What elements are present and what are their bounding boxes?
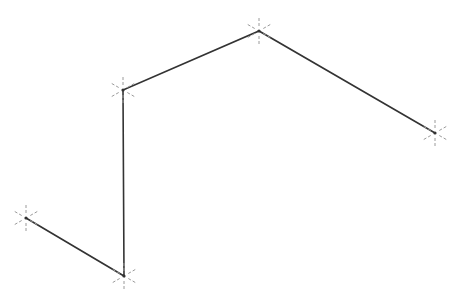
vertex-markers bbox=[15, 18, 447, 289]
vertex-marker-icon[interactable] bbox=[248, 18, 271, 44]
polyline-path bbox=[26, 31, 435, 276]
polyline bbox=[26, 31, 435, 276]
vertex-marker-icon[interactable] bbox=[424, 120, 447, 146]
vertex-marker-icon[interactable] bbox=[15, 205, 38, 231]
polyline-canvas bbox=[0, 0, 462, 300]
